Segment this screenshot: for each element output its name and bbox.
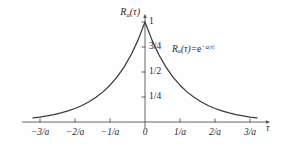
autocorrelation-chart: Ra(τ) τ Ra(τ)=e−a|τ| −3/a−2/a−1/a01/a2/a… bbox=[0, 0, 282, 149]
curve-equation-label: Ra(τ)=e−a|τ| bbox=[172, 44, 215, 55]
y-tick-label: 3/4 bbox=[149, 42, 161, 52]
equation-exponent: −a|τ| bbox=[201, 43, 214, 50]
x-tick-label: 1/a bbox=[174, 128, 186, 138]
y-axis-title-arg: (τ) bbox=[130, 6, 140, 17]
y-axis-title: Ra(τ) bbox=[120, 7, 140, 18]
y-tick-label: 1/4 bbox=[149, 92, 161, 102]
x-tick-label: 2/a bbox=[209, 128, 221, 138]
equation-func-arg: (τ) bbox=[181, 44, 191, 54]
x-tick-label: 3/a bbox=[244, 128, 256, 138]
x-tick-label: −2/a bbox=[66, 128, 85, 138]
y-tick-label: 1/2 bbox=[149, 67, 161, 77]
x-tick-label: −3/a bbox=[31, 128, 50, 138]
y-tick-label: 1 bbox=[149, 17, 154, 27]
x-tick-label: −1/a bbox=[101, 128, 120, 138]
x-tick-label: 0 bbox=[143, 128, 148, 138]
x-axis-title: τ bbox=[266, 124, 269, 134]
